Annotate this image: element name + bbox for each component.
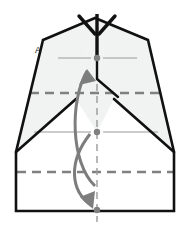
- origami-diagram-canvas: A: [0, 0, 191, 230]
- fold-dot-bottom: [94, 207, 100, 213]
- point-label-a: A: [35, 45, 41, 55]
- origami-diagram: A: [0, 0, 191, 230]
- fold-dot-middle: [94, 129, 100, 135]
- fold-dot-top: [94, 55, 100, 61]
